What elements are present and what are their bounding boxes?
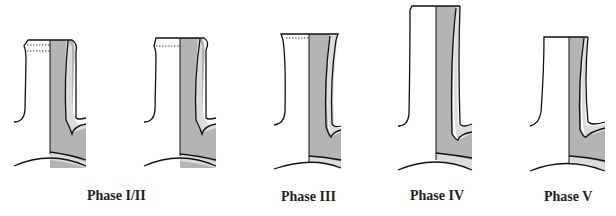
label-phase-4: Phase IV <box>410 188 464 204</box>
profile-phase-4 <box>398 6 472 170</box>
vessel-profiles-diagram <box>0 0 616 216</box>
profile-phase-1-2-a <box>14 40 86 168</box>
profile-phase-1-2-b <box>144 38 216 168</box>
profile-phase-3 <box>274 34 341 169</box>
label-phase-1-2: Phase I/II <box>87 188 146 204</box>
profile-phase-5 <box>530 37 605 171</box>
label-phase-5: Phase V <box>544 189 592 205</box>
label-phase-3: Phase III <box>281 189 336 205</box>
